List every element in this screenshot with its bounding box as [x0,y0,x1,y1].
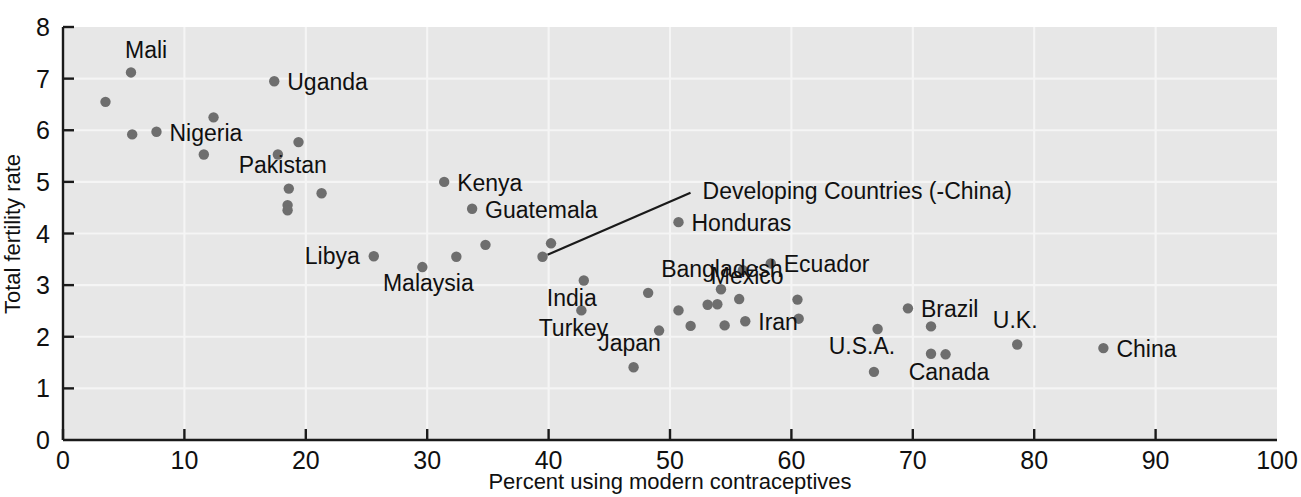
point-label: Japan [598,330,661,356]
data-point [439,177,449,187]
point-label: Mexico [711,263,784,289]
data-point [127,129,137,139]
data-point [734,294,744,304]
y-tick-label: 8 [36,13,50,41]
y-tick-label: 6 [36,116,50,144]
data-point [792,294,802,304]
point-label: India [547,285,597,311]
data-point [702,300,712,310]
point-label: Malaysia [383,270,474,296]
data-point [126,67,136,77]
data-point [926,349,936,359]
x-tick-label: 70 [899,446,927,474]
y-axis-tick-labels: 012345678 [36,13,50,454]
point-label: China [1116,336,1176,362]
point-label: Honduras [691,210,791,236]
data-point [282,205,292,215]
x-tick-label: 90 [1142,446,1170,474]
data-point [467,204,477,214]
data-point [579,275,589,285]
point-label: Canada [909,359,990,385]
y-axis-title: Total fertility rate [0,154,25,314]
data-point [926,321,936,331]
scatter-plot-figure: 0102030405060708090100 012345678 MaliNig… [0,0,1301,497]
data-point [673,217,683,227]
data-point [546,238,556,248]
point-label: Libya [305,243,360,269]
y-tick-label: 1 [36,374,50,402]
point-label: Kenya [457,170,522,196]
data-point [451,252,461,262]
data-point [537,252,547,262]
y-tick-label: 0 [36,426,50,454]
data-point [151,127,161,137]
data-point [643,288,653,298]
point-label: Mali [125,37,167,63]
data-point [480,240,490,250]
x-tick-label: 80 [1020,446,1048,474]
data-point [673,305,683,315]
point-label: Iran [758,309,798,335]
point-label: Uganda [287,69,368,95]
y-tick-label: 2 [36,323,50,351]
y-tick-label: 3 [36,271,50,299]
data-point [740,316,750,326]
point-label: Nigeria [169,120,242,146]
data-point [293,137,303,147]
point-label: Guatemala [485,197,598,223]
point-label: Ecuador [784,251,870,277]
data-point [712,299,722,309]
data-point [284,183,294,193]
y-tick-label: 4 [36,220,50,248]
x-tick-label: 30 [413,446,441,474]
data-point [316,188,326,198]
y-tick-label: 7 [36,65,50,93]
point-label: Brazil [921,296,979,322]
data-point [628,362,638,372]
data-point [869,367,879,377]
point-label: Pakistan [239,152,327,178]
data-point [719,320,729,330]
data-point [685,321,695,331]
y-tick-label: 5 [36,168,50,196]
plot-canvas: 0102030405060708090100 012345678 MaliNig… [0,0,1301,497]
data-point [199,149,209,159]
x-tick-label: 20 [292,446,320,474]
data-point [903,303,913,313]
point-label: U.S.A. [829,333,895,359]
point-label: U.K. [993,307,1038,333]
x-axis-title: Percent using modern contraceptives [488,469,851,494]
data-point [100,97,110,107]
data-point [1012,339,1022,349]
x-tick-label: 0 [56,446,70,474]
data-point [1098,343,1108,353]
point-label: Developing Countries (-China) [703,178,1012,204]
x-tick-label: 100 [1256,446,1298,474]
data-point [269,76,279,86]
x-tick-label: 10 [170,446,198,474]
data-point [369,251,379,261]
